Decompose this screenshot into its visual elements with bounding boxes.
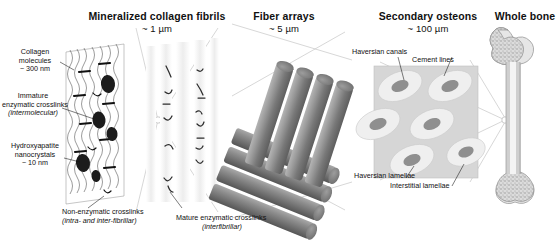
figure-root: Mineralized collagen fibrils ~ 1 µm Fibe… <box>0 0 558 242</box>
label-interstitial-lamellae: Interstitial lamellae <box>390 182 450 191</box>
label-cement-lines: Cement lines <box>412 56 454 65</box>
label-mature-enzymatic-crosslinks: Mature enzymatic crosslinks (interfibril… <box>176 214 266 231</box>
label-immature-enzymatic-crosslinks: Immature enzymatic crosslinks (intermole… <box>2 92 64 118</box>
graphic-mineralized-collagen-fibrils <box>66 44 124 204</box>
graphic-whole-bone <box>490 27 534 203</box>
label-non-enzymatic-crosslinks: Non-enzymatic crosslinks (intra- and int… <box>62 208 143 225</box>
label-haversian-canals: Haversian canals <box>352 48 407 57</box>
graphic-secondary-osteons <box>351 64 489 181</box>
label-collagen-molecules: Collagen molecules ~ 300 nm <box>8 48 62 74</box>
figure-graphics <box>0 0 558 242</box>
label-hydroxyapatite-nanocrystals: Hydroxyapatite nanocrystals ~ 10 nm <box>6 142 64 168</box>
label-haversian-lamellae: Haversian lamellae <box>354 172 415 181</box>
